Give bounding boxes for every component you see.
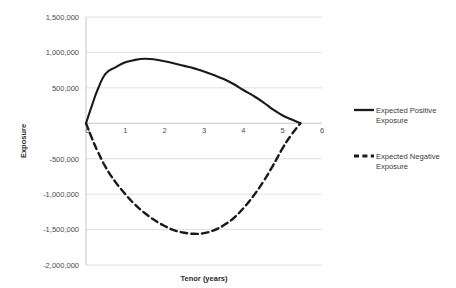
x-tick-label: 3: [202, 126, 206, 135]
series-group: [86, 59, 300, 234]
legend-label-1-line2: Exposure: [376, 116, 408, 125]
legend-label-2-line1: Expected Negative: [376, 152, 440, 161]
x-axis-title: Tenor (years): [181, 274, 228, 283]
x-tick-label: 5: [281, 126, 285, 135]
y-axis-title: Exposure: [19, 124, 28, 158]
chart-canvas: 1,500,0001,000,000500,000-500,000-1,000,…: [0, 0, 456, 288]
legend-label-1-line1: Expected Positive: [376, 106, 436, 115]
y-tick-label: 500,000: [52, 84, 79, 93]
chart-legend: Expected PositiveExposureExpected Negati…: [354, 106, 440, 171]
legend-label-2-line2: Exposure: [376, 162, 408, 171]
y-tick-label: -2,000,000: [43, 261, 79, 270]
y-tick-label: 1,500,000: [46, 13, 79, 22]
y-tick-label: 1,000,000: [46, 48, 79, 57]
y-axis-tick-labels: 1,500,0001,000,000500,000-500,000-1,000,…: [43, 13, 79, 270]
y-tick-label: -1,500,000: [43, 225, 79, 234]
y-tick-label: -500,000: [49, 155, 79, 164]
x-axis-tick-labels: 0123456: [85, 126, 324, 135]
x-tick-label: 2: [163, 126, 167, 135]
exposure-profile-chart: 1,500,0001,000,000500,000-500,000-1,000,…: [0, 0, 456, 288]
series-line-2: [86, 123, 300, 234]
x-tick-label: 4: [241, 126, 245, 135]
x-tick-label: 1: [123, 126, 127, 135]
series-line-1: [86, 59, 300, 123]
y-tick-label: -1,000,000: [43, 190, 79, 199]
x-tick-label: 6: [320, 126, 324, 135]
